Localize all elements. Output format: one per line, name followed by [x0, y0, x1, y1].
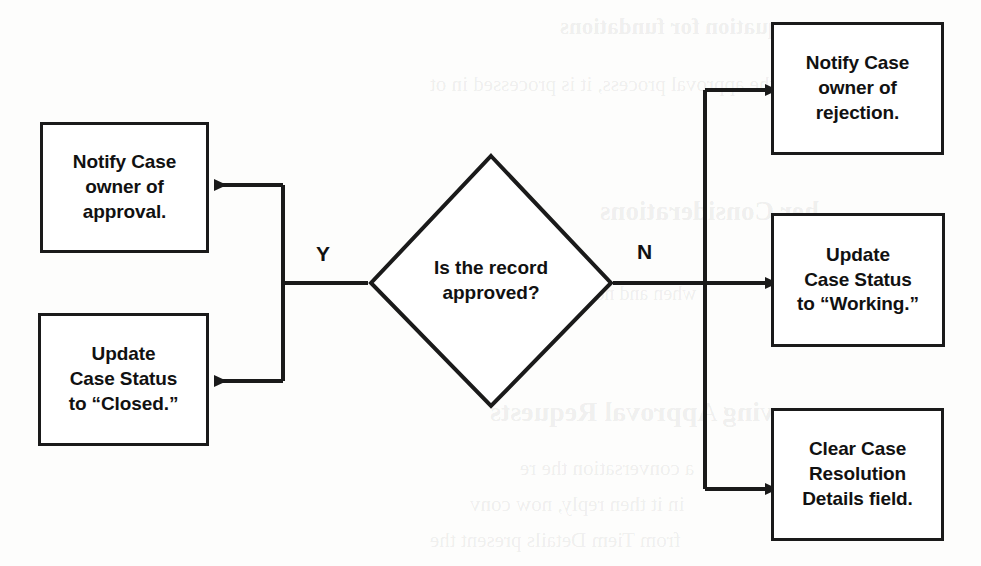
node-clear-resolution-details[interactable]: Clear Case Resolution Details field. — [771, 408, 944, 541]
bleed-text-1: the approval process, it is processed in… — [430, 72, 775, 97]
decision-label: Is the record approved? — [434, 256, 548, 305]
flowchart-canvas: equation for fundationsthe approval proc… — [0, 0, 981, 566]
node-update-status-closed[interactable]: Update Case Status to “Closed.” — [38, 313, 209, 446]
branch-label-no: N — [637, 240, 652, 264]
node-update-status-closed-label: Update Case Status to “Closed.” — [69, 342, 179, 416]
branch-label-yes: Y — [316, 242, 330, 266]
node-notify-approval[interactable]: Notify Case owner of approval. — [40, 122, 209, 253]
node-notify-rejection[interactable]: Notify Case owner of rejection. — [771, 22, 944, 155]
bleed-text-0: equation for fundations — [560, 14, 791, 40]
node-update-status-working-label: Update Case Status to “Working.” — [797, 243, 919, 317]
bleed-text-7: from Tiem Details present the — [430, 528, 681, 553]
node-clear-resolution-details-label: Clear Case Resolution Details field. — [802, 437, 913, 511]
bleed-text-6: in it then reply, now conv — [470, 492, 684, 517]
decision-is-record-approved[interactable]: Is the record approved? — [368, 153, 614, 409]
node-notify-rejection-label: Notify Case owner of rejection. — [806, 51, 909, 125]
node-notify-approval-label: Notify Case owner of approval. — [73, 150, 176, 224]
bleed-text-5: a conversation the re — [520, 456, 694, 481]
node-update-status-working[interactable]: Update Case Status to “Working.” — [771, 213, 945, 347]
